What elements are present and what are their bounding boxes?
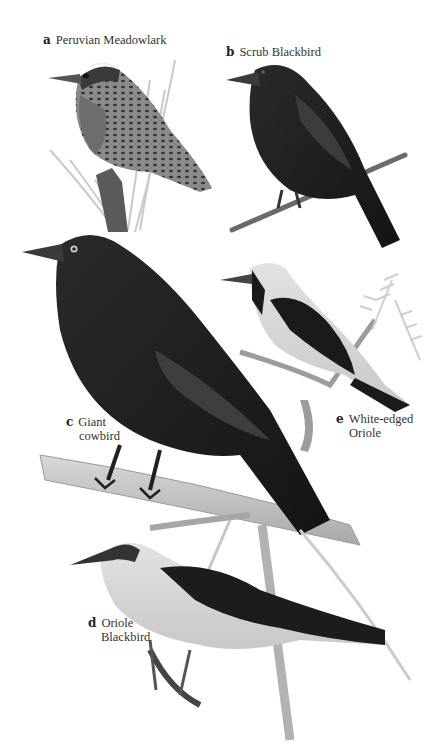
label-oriole-blackbird: dOriole Blackbird: [88, 616, 150, 644]
species-letter: a: [43, 33, 51, 47]
peruvian-meadowlark-illustration: [48, 60, 212, 232]
label-peruvian-meadowlark: aPeruvian Meadowlark: [43, 33, 167, 47]
label-white-edged-oriole: eWhite-edged Oriole: [336, 412, 413, 440]
species-name-line2: Oriole: [349, 426, 381, 440]
species-name: Scrub Blackbird: [239, 45, 321, 59]
scrub-blackbird-illustration: [226, 65, 405, 248]
species-name-line1: Oriole: [101, 616, 133, 630]
species-letter: e: [336, 412, 344, 426]
bird-illustrations: [0, 0, 439, 745]
field-guide-plate: aPeruvian Meadowlark bScrub Blackbird cG…: [0, 0, 439, 745]
species-name-line2: Blackbird: [101, 630, 150, 644]
species-name-line1: Giant: [78, 415, 106, 429]
species-letter: b: [226, 45, 234, 59]
giant-cowbird-illustration: [22, 235, 360, 545]
species-name: Peruvian Meadowlark: [56, 33, 167, 47]
label-scrub-blackbird: bScrub Blackbird: [226, 45, 321, 59]
species-name-line1: White-edged: [349, 412, 414, 426]
species-name-line2: cowbird: [79, 429, 120, 443]
label-giant-cowbird: cGiant cowbird: [66, 415, 120, 443]
species-letter: c: [66, 415, 73, 429]
species-letter: d: [88, 616, 96, 630]
